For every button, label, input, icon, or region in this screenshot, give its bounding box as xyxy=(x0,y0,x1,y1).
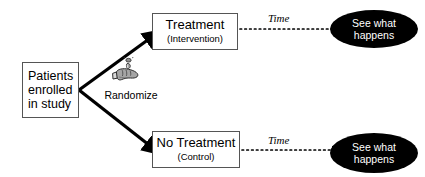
outcome-bottom-line-1: See what xyxy=(352,141,396,153)
node-start-line-2: enrolled xyxy=(28,83,72,97)
node-patients-enrolled: Patients enrolled in study xyxy=(22,62,79,118)
node-start-line-3: in study xyxy=(28,97,71,111)
node-treatment-label: Treatment xyxy=(166,18,225,33)
node-no-treatment: No Treatment (Control) xyxy=(152,131,240,168)
edge-label-time-bottom: Time xyxy=(266,134,291,146)
hand-flipping-coin-icon xyxy=(108,57,146,89)
outcome-bottom-line-2: happens xyxy=(354,153,394,165)
node-outcome-control: See what happens xyxy=(330,133,418,173)
node-outcome-treatment: See what happens xyxy=(330,10,418,48)
trial-flow-diagram: Patients enrolled in study Treatment (In… xyxy=(0,0,425,177)
node-treatment: Treatment (Intervention) xyxy=(152,13,238,50)
node-control-sublabel: (Control) xyxy=(178,152,215,163)
outcome-top-line-2: happens xyxy=(354,29,394,41)
randomize-group: Randomize xyxy=(100,57,162,105)
node-treatment-sublabel: (Intervention) xyxy=(167,34,223,45)
outcome-top-line-1: See what xyxy=(352,17,396,29)
edge-label-time-top: Time xyxy=(266,12,291,24)
edge-label-randomize: Randomize xyxy=(100,89,162,101)
node-start-line-1: Patients xyxy=(28,69,73,83)
node-control-label: No Treatment xyxy=(157,136,236,151)
